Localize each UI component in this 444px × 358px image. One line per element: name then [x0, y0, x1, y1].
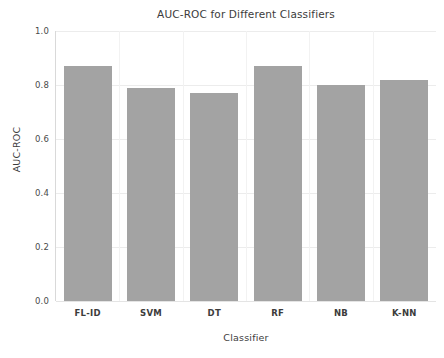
y-tick-label-0.0: 0.0	[35, 296, 49, 306]
x-axis-label: Classifier	[56, 332, 436, 343]
chart-figure: AUC-ROC for Different Classifiers 0.00.2…	[0, 0, 444, 358]
bar-SVM	[127, 88, 175, 301]
bar-FL-ID	[64, 66, 112, 301]
y-tick-label-1.0: 1.0	[35, 26, 49, 36]
bar-DT	[190, 93, 238, 301]
bar-K-NN	[380, 80, 428, 301]
y-tick-label-0.2: 0.2	[35, 242, 49, 252]
gridline-x-DT	[183, 31, 184, 301]
x-tick-label-SVM: SVM	[140, 308, 162, 318]
y-tick-label-0.8: 0.8	[35, 80, 49, 90]
y-axis-label: AUC-ROC	[11, 80, 22, 220]
gridline-x-RF	[246, 31, 247, 301]
gridline-x-K-NN	[373, 31, 374, 301]
x-tick-label-DT: DT	[208, 308, 221, 318]
y-tick-label-0.6: 0.6	[35, 134, 49, 144]
bar-RF	[254, 66, 302, 301]
x-tick-label-RF: RF	[271, 308, 284, 318]
x-tick-label-NB: NB	[334, 308, 348, 318]
chart-title: AUC-ROC for Different Classifiers	[56, 8, 436, 20]
y-tick-label-0.4: 0.4	[35, 188, 49, 198]
x-tick-label-FL-ID: FL-ID	[74, 308, 100, 318]
gridline-x-NB	[309, 31, 310, 301]
bar-NB	[317, 85, 365, 301]
gridline-y-0.0	[56, 301, 436, 302]
plot-area: 0.00.20.40.60.81.0FL-IDSVMDTRFNBK-NN	[56, 31, 436, 301]
gridline-x-SVM	[119, 31, 120, 301]
x-tick-label-K-NN: K-NN	[392, 308, 417, 318]
